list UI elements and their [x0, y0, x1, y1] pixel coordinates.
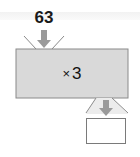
answer-box[interactable]	[86, 118, 126, 144]
multiply-icon: ×	[62, 66, 70, 81]
operand: 3	[72, 64, 81, 84]
operation-label: × 3	[16, 49, 128, 98]
input-arrow-icon	[37, 30, 51, 48]
